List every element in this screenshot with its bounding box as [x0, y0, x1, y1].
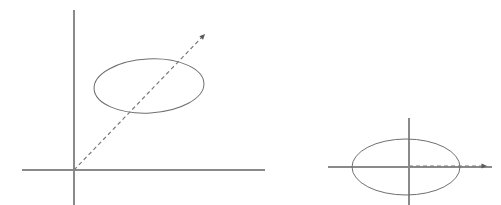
- left-panel-dashed-diagonal-ray: [74, 36, 203, 170]
- left-panel-tilted-ellipse: [93, 56, 206, 116]
- left-panel: [22, 10, 265, 205]
- right-panel: [328, 118, 492, 205]
- left-panel-arrowhead-icon: [199, 34, 205, 40]
- right-panel-arrowhead-icon: [482, 163, 488, 168]
- geometry-figure-canvas: [0, 0, 501, 205]
- figure-svg: [0, 0, 501, 205]
